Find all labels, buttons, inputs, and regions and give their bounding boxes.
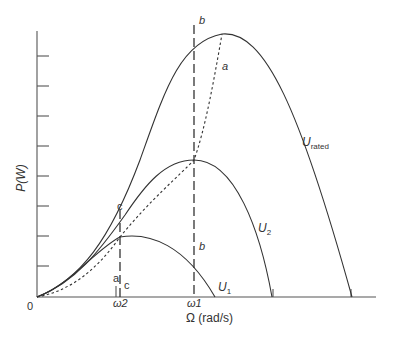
curves — [37, 34, 352, 297]
label-u1: U1 — [218, 280, 232, 296]
axes — [37, 31, 376, 297]
origin-label: 0 — [27, 300, 33, 312]
curve-u2 — [37, 160, 272, 297]
label-a-bottom: a — [113, 272, 120, 284]
label-c-bottom: c — [124, 279, 130, 291]
label-c-top: c — [117, 200, 123, 212]
power-speed-diagram: P(W) 0 Ω (rad/s) ω2 ω1 b a b c c a Urate… — [0, 0, 395, 342]
curve-a-optimal — [37, 34, 222, 297]
label-b-mid: b — [199, 240, 205, 252]
label-u-rated: Urated — [302, 135, 329, 151]
label-b-top: b — [199, 14, 205, 26]
label-a-top: a — [222, 60, 228, 72]
curve-u-rated — [37, 34, 352, 297]
x-axis-label: Ω (rad/s) — [186, 311, 233, 325]
label-u2: U2 — [258, 221, 272, 237]
omega2-label: ω2 — [113, 297, 128, 309]
y-axis-label: P(W) — [14, 164, 28, 191]
omega1-label: ω1 — [187, 297, 202, 309]
